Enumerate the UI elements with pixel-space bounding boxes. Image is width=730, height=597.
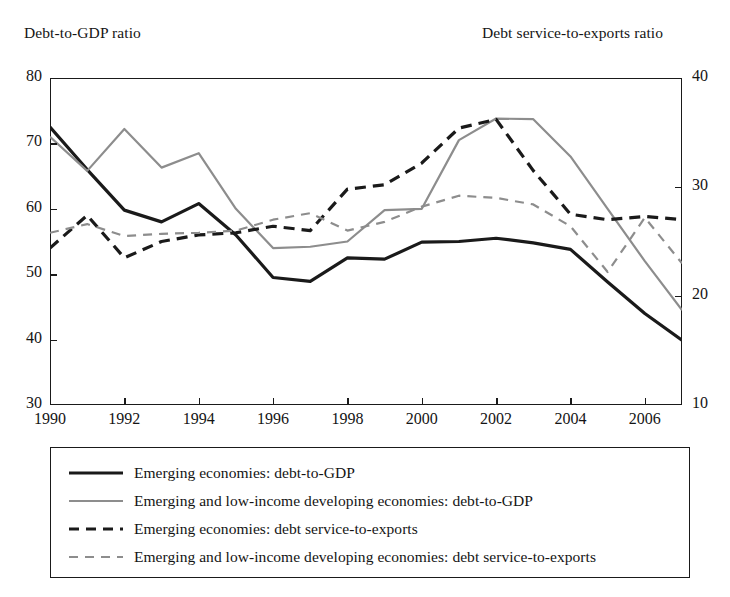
legend-line-sample-icon [69,466,123,480]
legend-item-4[interactable]: Emerging and low-income developing econo… [69,544,596,570]
series-line-4 [50,196,682,272]
y-right-tick [675,296,682,297]
left-axis-caption: Debt-to-GDP ratio [24,24,141,42]
y-left-tick [50,209,57,210]
x-tick-label: 1990 [20,410,80,428]
legend-line-sample-icon [69,494,123,508]
y-right-tick-label: 40 [692,67,726,85]
y-left-tick-label: 40 [8,329,42,347]
x-tick-label: 1994 [169,410,229,428]
y-left-tick [50,143,57,144]
legend: Emerging economies: debt-to-GDPEmerging … [50,447,690,578]
series-line-1 [50,127,682,340]
y-right-tick-label: 30 [692,176,726,194]
x-tick [199,398,200,405]
legend-line-sample-icon [69,522,123,536]
chart-lines [50,78,682,405]
legend-item-label: Emerging and low-income developing econo… [134,548,596,566]
plot-area [50,78,682,405]
legend-item-label: Emerging economies: debt service-to-expo… [134,520,418,538]
x-tick-label: 1996 [243,410,303,428]
x-tick [124,398,125,405]
y-left-tick-label: 50 [8,263,42,281]
x-tick [422,398,423,405]
y-left-tick-label: 60 [8,198,42,216]
legend-item-1[interactable]: Emerging economies: debt-to-GDP [69,460,355,486]
series-line-2 [50,119,682,311]
x-tick-label: 1992 [94,410,154,428]
x-tick [347,398,348,405]
x-tick [645,398,646,405]
y-left-tick-label: 70 [8,132,42,150]
y-left-tick [50,340,57,341]
y-right-tick-label: 10 [692,394,726,412]
legend-item-label: Emerging and low-income developing econo… [134,492,533,510]
x-tick [570,398,571,405]
y-right-tick [675,187,682,188]
x-tick-label: 2002 [466,410,526,428]
x-tick-label: 2004 [540,410,600,428]
y-left-tick-label: 80 [8,67,42,85]
legend-item-label: Emerging economies: debt-to-GDP [134,464,355,482]
chart-page: Debt-to-GDP ratio Debt service-to-export… [0,0,730,597]
right-axis-caption: Debt service-to-exports ratio [482,24,663,42]
x-tick-label: 2000 [392,410,452,428]
y-right-tick-label: 20 [692,285,726,303]
series-line-3 [50,119,682,257]
legend-line-sample-icon [69,550,123,564]
y-left-tick [50,274,57,275]
x-tick-label: 1998 [317,410,377,428]
x-tick [273,398,274,405]
legend-item-2[interactable]: Emerging and low-income developing econo… [69,488,533,514]
x-tick-label: 2006 [615,410,675,428]
x-tick [496,398,497,405]
legend-item-3[interactable]: Emerging economies: debt service-to-expo… [69,516,418,542]
